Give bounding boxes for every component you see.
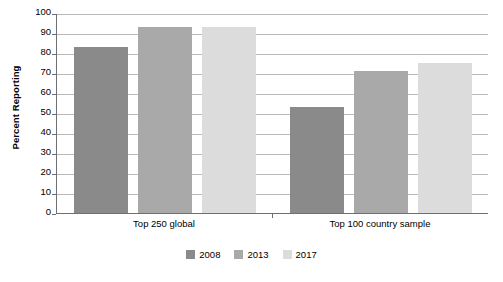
- y-axis-tick-label: 40: [40, 127, 51, 137]
- bar: [202, 27, 256, 213]
- y-axis-tick-label: 70: [40, 67, 51, 77]
- y-axis-tick-mark: [52, 174, 56, 175]
- legend: 200820132017: [0, 250, 503, 260]
- y-axis-title-label: Percent Reporting: [10, 65, 21, 149]
- bar-chart: Percent Reporting 0102030405060708090100…: [0, 0, 503, 282]
- y-axis-tick-mark: [52, 214, 56, 215]
- y-axis-tick-label: 90: [40, 27, 51, 37]
- x-axis-category-labels: Top 250 globalTop 100 country sample: [56, 218, 488, 238]
- y-axis-tick-label: 80: [40, 47, 51, 57]
- y-axis-tick-mark: [52, 194, 56, 195]
- y-axis-tick-label: 60: [40, 87, 51, 97]
- legend-item[interactable]: 2017: [283, 250, 317, 260]
- legend-swatch-icon: [234, 250, 243, 259]
- legend-item-label: 2013: [247, 250, 268, 260]
- y-axis-tick-mark: [52, 54, 56, 55]
- legend-item[interactable]: 2013: [234, 250, 268, 260]
- legend-swatch-icon: [186, 250, 195, 259]
- x-axis-category-label: Top 100 country sample: [330, 218, 431, 229]
- legend-item-label: 2017: [296, 250, 317, 260]
- y-axis-tick-label: 10: [40, 187, 51, 197]
- x-axis-separator-tick: [272, 214, 273, 218]
- y-axis-tick-mark: [52, 134, 56, 135]
- y-axis-tick-mark: [52, 94, 56, 95]
- x-axis-category-label: Top 250 global: [133, 218, 195, 229]
- y-axis-tick-label: 100: [35, 7, 51, 17]
- legend-item[interactable]: 2008: [186, 250, 220, 260]
- legend-swatch-icon: [283, 250, 292, 259]
- bar: [290, 107, 344, 213]
- bars-layer: [57, 14, 488, 213]
- bar: [354, 71, 408, 213]
- bar: [138, 27, 192, 213]
- bar: [74, 47, 128, 213]
- y-axis-tick-mark: [52, 34, 56, 35]
- y-axis-tick-label: 0: [46, 207, 51, 217]
- plot-area: [56, 14, 488, 214]
- legend-item-label: 2008: [199, 250, 220, 260]
- plot-wrapper: 0102030405060708090100: [30, 14, 488, 214]
- y-axis-tick-label: 30: [40, 147, 51, 157]
- bar: [418, 63, 472, 213]
- y-axis-tick-mark: [52, 154, 56, 155]
- y-axis-tick-mark: [52, 114, 56, 115]
- y-axis-tick-mark: [52, 14, 56, 15]
- y-axis-tick-label: 20: [40, 167, 51, 177]
- y-axis-title: Percent Reporting: [0, 0, 30, 215]
- y-axis-tick-label: 50: [40, 107, 51, 117]
- y-axis-tick-mark: [52, 74, 56, 75]
